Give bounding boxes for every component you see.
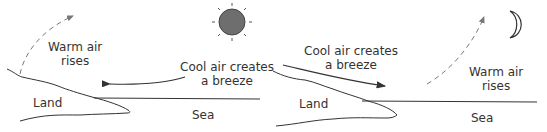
warm-air-label: Warm air rises	[469, 65, 523, 93]
cool-air-label-line2: a breeze	[304, 58, 398, 72]
warm-air-label-line2: rises	[469, 79, 523, 93]
sea-surface-line	[94, 98, 260, 99]
land-coastline-bottom	[276, 118, 387, 126]
moon-icon	[510, 11, 521, 38]
warm-air-label-line1: Warm air	[469, 65, 523, 79]
sea-surface-line	[362, 101, 537, 102]
sun-icon	[212, 3, 252, 41]
cool-air-label-line1: Cool air creates	[304, 44, 398, 58]
sea-label: Sea	[471, 111, 493, 125]
cool-air-label: Cool air creates a breeze	[180, 60, 274, 88]
cool-air-label: Cool air creates a breeze	[304, 44, 398, 72]
warm-air-label-line1: Warm air	[48, 40, 102, 54]
day-sea-breeze-panel: Warm air rises Cool air creates a breeze…	[0, 0, 273, 132]
night-land-breeze-panel: Cool air creates a breeze Warm air rises…	[273, 0, 547, 132]
warm-air-label-line2: rises	[48, 54, 102, 68]
land-coastline-top	[273, 71, 397, 118]
breeze-arrow	[110, 77, 185, 84]
warm-air-label: Warm air rises	[48, 40, 102, 68]
land-label: Land	[299, 97, 328, 111]
land-coastline-top	[7, 69, 130, 113]
land-coastline-bottom	[20, 113, 127, 121]
cool-air-label-line1: Cool air creates	[180, 60, 274, 74]
land-label: Land	[33, 96, 62, 110]
cool-air-label-line2: a breeze	[180, 74, 274, 88]
sea-label: Sea	[192, 108, 214, 122]
